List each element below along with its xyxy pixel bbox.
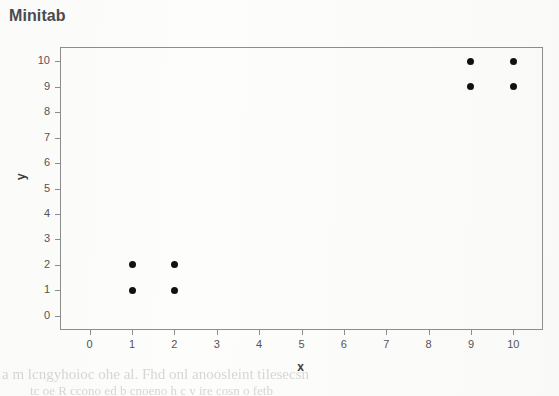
y-axis-tick [55,87,60,88]
y-axis-tick-label: 9 [18,80,50,92]
x-axis-tick-label: 9 [456,338,486,350]
y-axis-tick-label: 5 [18,182,50,194]
x-axis-tick [513,330,514,335]
x-axis-tick-label: 1 [117,338,147,350]
x-axis-tick-label: 3 [202,338,232,350]
y-axis-tick-label: 2 [18,258,50,270]
y-axis-tick [55,189,60,190]
y-axis-title: y [14,173,28,180]
y-axis-tick-label: 4 [18,207,50,219]
x-axis-tick [302,330,303,335]
x-axis-title: x [0,360,559,374]
x-axis-tick-label: 7 [371,338,401,350]
y-axis-tick-label: 0 [18,309,50,321]
x-axis-tick-label: 0 [75,338,105,350]
y-axis-tick-label: 3 [18,232,50,244]
y-axis-tick [55,239,60,240]
y-axis-tick [55,316,60,317]
scatterplot-figure: x y 012345678910012345678910 [0,0,559,396]
x-axis-tick-label: 8 [414,338,444,350]
x-axis-tick [344,330,345,335]
data-point [129,287,136,294]
x-axis-tick [259,330,260,335]
x-axis-title-text: x [297,360,304,374]
x-axis-tick-label: 4 [244,338,274,350]
x-axis-tick [90,330,91,335]
x-axis-tick [174,330,175,335]
y-axis-tick [55,112,60,113]
data-point [171,287,178,294]
chart-title: Minitab [9,7,66,25]
data-point [129,261,136,268]
x-axis-tick [132,330,133,335]
x-axis-tick [217,330,218,335]
y-axis-tick-label: 7 [18,131,50,143]
y-axis-tick [55,290,60,291]
y-axis-tick-label: 8 [18,105,50,117]
x-axis-tick [471,330,472,335]
y-axis-tick-label: 1 [18,283,50,295]
x-axis-tick-label: 10 [498,338,528,350]
x-axis-tick [386,330,387,335]
data-point [510,58,517,65]
x-axis-tick-label: 2 [159,338,189,350]
data-point [467,58,474,65]
x-axis-tick-label: 5 [287,338,317,350]
data-point [510,83,517,90]
data-point [171,261,178,268]
y-axis-tick [55,265,60,266]
data-point [467,83,474,90]
y-axis-tick [55,138,60,139]
y-axis-tick-label: 10 [18,54,50,66]
plot-area [60,47,543,330]
x-axis-tick-label: 6 [329,338,359,350]
y-axis-tick-label: 6 [18,156,50,168]
y-axis-tick [55,163,60,164]
y-axis-tick [55,61,60,62]
x-axis-tick [429,330,430,335]
y-axis-tick [55,214,60,215]
